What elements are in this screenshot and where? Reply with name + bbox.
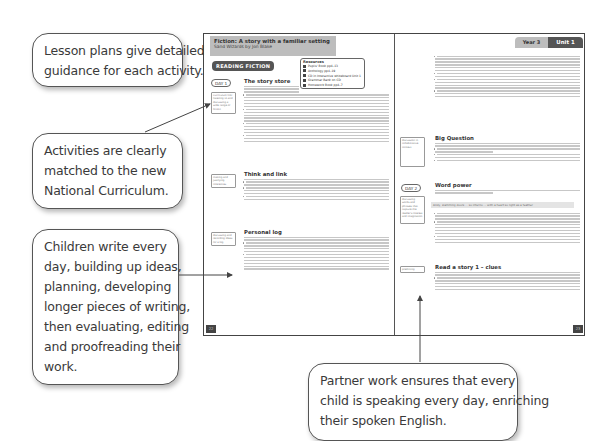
callout-text: Partner work ensures that every	[320, 371, 507, 391]
section-body	[435, 213, 580, 243]
reading-fiction-badge: READING FICTION	[212, 61, 274, 71]
page-number-left: 22	[206, 325, 216, 333]
curriculum-note: making and justifying inferences	[211, 174, 236, 188]
callout-text: longer pieces of writing,	[44, 297, 168, 317]
story-store-section: The story store	[244, 78, 389, 143]
callout-text: their spoken English.	[320, 411, 507, 431]
think-and-link-section: Think and link	[244, 171, 389, 202]
curriculum-note: discussing and recording ideas for a log	[211, 232, 236, 246]
word-power-section: Word power	[435, 182, 580, 195]
section-title: Think and link	[244, 171, 389, 177]
arrow-curriculum	[145, 104, 210, 132]
read-a-story-section: Read a story 1 – clues	[435, 264, 580, 292]
curriculum-note: Curriculum link: listening to and discus…	[211, 92, 236, 114]
callout-text: then evaluating, editing	[44, 317, 168, 337]
left-page: Fiction: A story with a familiar setting…	[204, 34, 394, 335]
unit-subtitle: Sand Wizards by Jon Blake	[214, 44, 332, 49]
unit-title-bar: Fiction: A story with a familiar setting…	[210, 36, 336, 56]
callout-text: guidance for each activity.	[44, 61, 172, 81]
section-title: Personal log	[244, 229, 389, 235]
callout-curriculum: Activities are clearly matched to the ne…	[32, 133, 183, 209]
section-body	[435, 272, 580, 291]
section-body	[244, 179, 389, 201]
year-tab: Year 3	[515, 37, 548, 48]
personal-log-section: Personal log	[244, 229, 389, 271]
callout-lesson-plans: Lesson plans give detailed guidance for …	[32, 33, 183, 87]
section-purpose	[435, 190, 580, 194]
day-2-badge: DAY 2	[401, 184, 421, 192]
callout-text: and proofreading their	[44, 337, 168, 357]
quote-bar: Andy, slamming doors ... so inferno ... …	[431, 202, 574, 208]
callout-text: work.	[44, 357, 168, 377]
curriculum-note: predicting	[400, 266, 425, 273]
page-number-right: 23	[573, 325, 583, 333]
callout-text: Children write every	[44, 237, 168, 257]
callout-text: planning, developing	[44, 277, 168, 297]
big-question-section: Big Question	[435, 135, 580, 163]
callout-text: Activities are clearly	[44, 141, 172, 161]
callout-text: day, building up ideas,	[44, 257, 168, 277]
section-title: The story store	[244, 78, 389, 84]
section-body	[244, 94, 389, 142]
callout-text: Lesson plans give detailed	[44, 41, 172, 61]
section-purpose	[244, 86, 299, 93]
section-title: Read a story 1 – clues	[435, 264, 580, 270]
curriculum-note: discussing words and phrases that captur…	[400, 196, 425, 224]
right-page: Year 3 Unit 1 discussion in collaborativ…	[395, 34, 585, 335]
unit-tab: Unit 1	[548, 37, 583, 48]
callout-text: child is speaking every day, enriching	[320, 391, 507, 411]
continued-text	[435, 54, 580, 99]
section-body	[435, 143, 580, 162]
word-power-body	[435, 211, 580, 244]
day-1-badge: DAY 1	[211, 79, 231, 87]
section-body	[244, 237, 389, 270]
section-title: Big Question	[435, 135, 580, 141]
section-body	[435, 56, 580, 98]
callout-text: matched to the new	[44, 161, 172, 181]
book-spread: Fiction: A story with a familiar setting…	[203, 33, 585, 336]
callout-partner-work: Partner work ensures that every child is…	[308, 363, 518, 441]
callout-writing: Children write every day, building up id…	[32, 229, 179, 385]
callout-text: National Curriculum.	[44, 181, 172, 201]
curriculum-note: discussion in collaborative context	[400, 137, 425, 167]
section-title: Word power	[435, 182, 580, 188]
